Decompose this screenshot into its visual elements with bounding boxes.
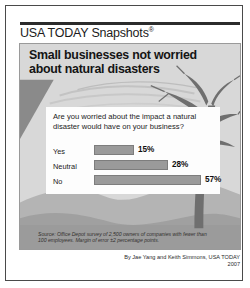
bar-track-neutral — [94, 160, 168, 170]
byline: By Jae Yang and Keith Simmons, USA TODAY… — [20, 254, 240, 268]
brand-title: USA TODAY Snapshots® — [20, 26, 240, 41]
bar-row: Yes 15% — [53, 144, 220, 159]
bar-label-neutral: Neutral — [53, 162, 77, 171]
bar-value-yes: 15% — [138, 145, 154, 154]
bar-value-no: 57% — [205, 175, 221, 184]
top-rule — [20, 22, 240, 25]
bar-fill-no — [94, 175, 201, 185]
bar-row: No 57% — [53, 174, 220, 189]
bar-row: Neutral 28% — [53, 159, 220, 174]
bar-fill-yes — [94, 145, 134, 155]
brand-title-text: USA TODAY Snapshots — [20, 26, 149, 40]
survey-question: Are you worried about the impact a natur… — [53, 112, 211, 131]
chart-card: Are you worried about the impact a natur… — [46, 107, 220, 194]
byline-year: 2007 — [20, 261, 240, 268]
registered-trademark-icon: ® — [149, 26, 154, 33]
bar-label-no: No — [53, 177, 62, 186]
snapshot-card: USA TODAY Snapshots® — [5, 5, 243, 281]
bar-track-yes — [94, 145, 134, 155]
headline: Small businesses not worried about natur… — [29, 49, 209, 76]
bar-chart: Yes 15% Neutral 28% No — [53, 144, 220, 189]
source-note: Source: Office Depot survey of 2,500 own… — [38, 231, 216, 243]
illustration-panel: Small businesses not worried about natur… — [19, 43, 241, 250]
bar-label-yes: Yes — [53, 147, 65, 156]
bar-fill-neutral — [94, 160, 168, 170]
byline-credit: By Jae Yang and Keith Simmons, USA TODAY — [124, 254, 240, 260]
bar-value-neutral: 28% — [172, 160, 188, 169]
bar-track-no — [94, 175, 201, 185]
